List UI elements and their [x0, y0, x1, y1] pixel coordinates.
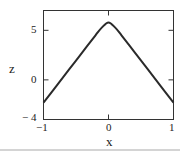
- y-tick-5: 5: [31, 24, 37, 35]
- x-tick-1: 1: [169, 122, 175, 133]
- plot-frame: [44, 11, 174, 120]
- plot-area: [0, 0, 180, 158]
- x-tick-minus-1: −1: [36, 122, 48, 133]
- x-tick-0: 0: [106, 122, 112, 133]
- divider: [0, 149, 180, 151]
- y-tick-0: 0: [31, 74, 37, 85]
- y-tick-minus-4: − 4: [22, 112, 36, 123]
- data-curve: [44, 22, 174, 102]
- x-axis-label: x: [106, 135, 113, 148]
- y-axis-label: z: [9, 62, 15, 75]
- tick-marks: [44, 11, 174, 120]
